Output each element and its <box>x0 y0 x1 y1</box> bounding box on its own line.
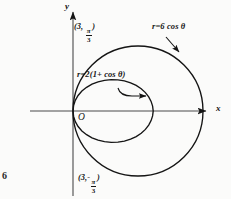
figure-graphics <box>0 0 231 199</box>
upper-intersection-label: (3, π3) <box>74 22 95 44</box>
lower-intersection-label: (3,-π3) <box>78 173 100 195</box>
cardioid-equation-label: r=2(1+ cos θ) <box>77 70 125 79</box>
upper-point-theta: π3 <box>86 28 92 44</box>
y-axis-label: y <box>65 2 69 11</box>
origin-label: O <box>78 113 85 123</box>
lower-point-theta: π3 <box>91 179 97 195</box>
circle-equation-label: r=6 cos θ <box>152 22 185 31</box>
x-axis-label: x <box>216 104 221 113</box>
polar-curves-figure: y x O r=6 cos θ r=2(1+ cos θ) (3, π3) (3… <box>0 0 231 199</box>
circle-label-leader <box>166 37 179 52</box>
caption-fragment: 6 <box>2 170 8 181</box>
